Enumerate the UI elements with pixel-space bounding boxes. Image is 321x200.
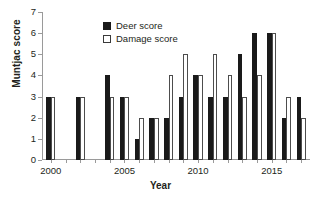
bar-damage-score-2012 xyxy=(228,75,233,160)
y-axis-title: Muntjac score xyxy=(11,0,22,114)
bar-damage-score-2004 xyxy=(110,97,115,160)
bar-damage-score-2013 xyxy=(242,97,247,160)
x-tick-label: 2000 xyxy=(40,166,61,176)
chart-legend: Deer score Damage score xyxy=(103,19,178,45)
x-tick-label: 2010 xyxy=(188,166,209,176)
bar-damage-score-2009 xyxy=(183,54,188,160)
bar-damage-score-2005 xyxy=(124,97,129,160)
y-tick-label: 5 xyxy=(31,50,36,60)
legend-label-damage-score: Damage score xyxy=(116,34,178,44)
bar-damage-score-2006 xyxy=(139,118,144,160)
y-tick-label: 4 xyxy=(31,71,36,81)
legend-label-deer-score: Deer score xyxy=(116,21,162,31)
bar-damage-score-2014 xyxy=(257,75,262,160)
legend-swatch-damage-score-icon xyxy=(103,35,111,43)
bar-damage-score-2010 xyxy=(198,75,203,160)
x-tick-label: 2015 xyxy=(261,166,282,176)
legend-swatch-deer-score-icon xyxy=(103,22,111,30)
x-axis-title: Year xyxy=(0,180,321,191)
x-tick-label: 2005 xyxy=(114,166,135,176)
bar-damage-score-2002 xyxy=(80,97,85,160)
y-tick-label: 0 xyxy=(31,155,36,165)
bar-damage-score-2016 xyxy=(286,97,291,160)
y-tick-label: 7 xyxy=(31,7,36,17)
y-tick-label: 1 xyxy=(31,134,36,144)
y-tick-label: 3 xyxy=(31,92,36,102)
legend-item-deer-score: Deer score xyxy=(103,19,178,32)
y-tick-label: 6 xyxy=(31,28,36,38)
legend-item-damage-score: Damage score xyxy=(103,32,178,45)
bar-damage-score-2000 xyxy=(51,97,56,160)
bar-damage-score-2017 xyxy=(301,118,306,160)
bar-damage-score-2011 xyxy=(213,54,218,160)
chart-container: Muntjac score Year 01234567 200020052010… xyxy=(0,0,321,200)
y-tick-mark xyxy=(38,160,42,161)
y-tick-label: 2 xyxy=(31,113,36,123)
bar-damage-score-2007 xyxy=(154,118,159,160)
bar-damage-score-2008 xyxy=(169,75,174,160)
bar-damage-score-2015 xyxy=(272,33,277,160)
